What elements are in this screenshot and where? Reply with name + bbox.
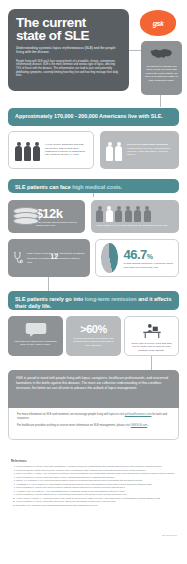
- references-list: Lupus Foundation of America. Lupus facts…: [11, 465, 177, 506]
- female-figure-group: [106, 139, 122, 161]
- prevalence-banner-rest: Americans live with SLE.: [99, 113, 163, 119]
- daily-activities-text: of SLE patients say the disease has impa…: [71, 337, 116, 347]
- reference-item: Lupus Foundation of America. The impact …: [16, 486, 177, 489]
- gsksle-link[interactable]: GSKSLE.com: [131, 424, 148, 427]
- flares-value: 46.7%: [123, 247, 173, 262]
- women-of-color-text: SLE is 2 to 3 times more prevalent among…: [127, 143, 173, 157]
- person-figure-icon: [144, 206, 151, 223]
- women-prevalence-text: 9 in 10 people diagnosed with SLE are wo…: [45, 143, 87, 157]
- employment-text: Nearly half of people living with SLE ar…: [130, 342, 173, 352]
- daily-activities-value: >60%: [71, 323, 116, 335]
- reference-item: Izmirly PM, Parton H, Wang L, et al. Pre…: [16, 472, 177, 475]
- diagnosis-delay-card: More than one third report a diagnosis d…: [8, 316, 63, 356]
- flares-pie-chart: [101, 243, 118, 273]
- women-prevalence-card: 9 in 10 people diagnosed with SLE are wo…: [8, 131, 94, 169]
- costs-banner-light: high medical costs.: [72, 184, 122, 190]
- hospitalization-figure-group: [96, 204, 174, 222]
- reference-item: Al Sawah S, Daly RP, Foster SA, et al. U…: [16, 490, 177, 493]
- stethoscope-icon: [13, 245, 23, 271]
- annual-cost-value: $12k: [36, 206, 80, 221]
- infographic-page: The current state of SLE Understanding s…: [0, 0, 187, 564]
- closing-line-2: For healthcare providers wishing to rece…: [17, 424, 170, 428]
- costs-banner-bold: SLE patients can face: [15, 184, 71, 190]
- female-figure-icon: [24, 142, 31, 162]
- employment-card: Nearly half of people living with SLE ar…: [124, 316, 179, 356]
- flares-card: 46.7% of SLE patients report they experi…: [95, 239, 179, 277]
- references-section: References Lupus Foundation of America. …: [11, 459, 177, 507]
- speech-bubble-icon: [25, 322, 47, 337]
- reference-item: GSK data on file. Systemic lupus erythem…: [16, 504, 177, 507]
- prevalence-figure: Approximately 170,000 - 200,000: [15, 113, 98, 119]
- person-figure-icon-highlighted: [106, 206, 113, 223]
- reference-item: Lupus Foundation of America. Lupus and w…: [16, 476, 177, 479]
- reference-item: Lupus Foundation of America. National su…: [16, 493, 177, 496]
- costs-banner-text: SLE patients can face high medical costs…: [15, 184, 172, 191]
- desk-work-icon: [141, 323, 163, 339]
- hero-subtitle: Understanding systemic lupus erythematos…: [16, 46, 121, 55]
- prevalence-banner: Approximately 170,000 - 200,000 American…: [8, 108, 179, 126]
- gsk-logo: gsk: [140, 10, 176, 36]
- person-figure-icon: [125, 206, 132, 223]
- reference-item: Centers for Disease Control and Preventi…: [16, 469, 177, 472]
- female-figure-icon: [15, 142, 22, 162]
- female-figure-icon: [106, 142, 113, 162]
- person-figure-icon: [134, 206, 141, 223]
- gskhealthconnect-link[interactable]: gskhealthconnect.com: [125, 413, 152, 416]
- hero-intro-paragraph: People living with SLE each face varying…: [16, 60, 121, 79]
- person-figure-icon: [115, 206, 122, 223]
- reference-item: Lupus Foundation of America. Lupus facts…: [16, 465, 177, 468]
- hospitalization-card: Approximately 1 in 6 people with SLE are…: [91, 200, 179, 233]
- page-title: The current state of SLE: [16, 16, 121, 42]
- costs-banner: SLE patients can face high medical costs…: [8, 179, 179, 193]
- physician-visits-value: 12: [50, 253, 58, 260]
- hero-header: The current state of SLE Understanding s…: [8, 9, 129, 91]
- footer-code: NP-US-000000: [162, 534, 177, 536]
- map-callout-text: It is difficult to estimate how many peo…: [144, 65, 179, 82]
- reference-item: Yelin E, Trupin L, Yazdany J. A prospect…: [16, 497, 177, 500]
- annual-cost-card: $12k is the average direct medical cost …: [8, 200, 85, 233]
- coin-stack-icon: [13, 207, 32, 227]
- closing-info: For more information on SLE and treatmen…: [8, 408, 179, 440]
- physician-visits-text: Many people living with SLE visit multip…: [27, 252, 85, 264]
- annual-cost-text: is the average direct medical cost per p…: [36, 221, 80, 228]
- hospitalization-text: Approximately 1 in 6 people with SLE are…: [96, 224, 174, 227]
- prevalence-banner-text: Approximately 170,000 - 200,000 American…: [15, 113, 172, 120]
- connector-line: [151, 356, 152, 370]
- map-callout-box: It is difficult to estimate how many peo…: [141, 41, 182, 95]
- daily-activities-card: >60% of SLE patients say the disease has…: [66, 316, 121, 356]
- connector-line: [48, 277, 49, 291]
- connector-line: [160, 95, 161, 107]
- physician-visits-card: Many people living with SLE visit multip…: [8, 239, 90, 277]
- references-heading: References: [11, 459, 177, 463]
- female-figure-icon: [33, 142, 40, 162]
- reference-item: Carls G, Li T, Panopalis P, et al. Direc…: [16, 479, 177, 482]
- women-of-color-card: SLE is 2 to 3 times more prevalent among…: [100, 131, 179, 169]
- reference-item: Anandarajah AP, Luc M, Ritchlin CT. Hosp…: [16, 483, 177, 486]
- female-figure-icon: [115, 142, 122, 162]
- diagnosis-delay-text: More than one third report a diagnosis d…: [13, 340, 58, 347]
- gsk-statement: GSK is proud to stand with people living…: [8, 370, 179, 408]
- gsk-statement-text: GSK is proud to stand with people living…: [16, 376, 171, 391]
- daily-life-banner: SLE patients rarely go into long-term re…: [8, 291, 179, 310]
- gsk-logo-text: gsk: [153, 20, 164, 27]
- women-of-color-rest: among women of color, including Black, H…: [127, 147, 171, 157]
- reference-item: Lupus Foundation of America. Lupus and e…: [16, 500, 177, 503]
- closing-line-1: For more information on SLE and treatmen…: [17, 413, 170, 421]
- daily-life-banner-text: SLE patients rarely go into long-term re…: [15, 296, 172, 310]
- flares-text: of SLE patients report they experience f…: [123, 262, 173, 269]
- us-map-icon: [149, 46, 174, 62]
- female-figure-group: [15, 139, 40, 161]
- person-figure-icon: [96, 206, 103, 223]
